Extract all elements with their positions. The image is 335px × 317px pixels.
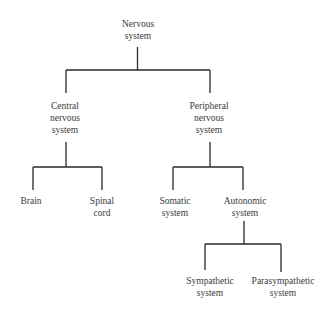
label-line: Brain <box>20 195 41 207</box>
node-parasympathetic-system: Parasympathetic system <box>252 275 315 299</box>
label-line: system <box>252 287 315 299</box>
pns-connector <box>173 142 243 190</box>
label-line: nervous <box>189 112 228 124</box>
node-autonomic-system: Autonomic system <box>224 195 267 219</box>
label-line: Central <box>50 100 80 112</box>
node-brain: Brain <box>20 195 41 207</box>
node-peripheral-nervous-system: Peripheral nervous system <box>189 100 228 136</box>
root-connector <box>66 47 210 93</box>
label-line: system <box>224 207 267 219</box>
node-nervous-system: Nervous system <box>122 18 154 42</box>
label-line: nervous <box>50 112 80 124</box>
autonomic-connector <box>205 221 281 272</box>
label-line: Nervous <box>122 18 154 30</box>
label-line: cord <box>90 207 114 219</box>
label-line: Parasympathetic <box>252 275 315 287</box>
label-line: system <box>186 287 234 299</box>
label-line: Autonomic <box>224 195 267 207</box>
node-spinal-cord: Spinal cord <box>90 195 114 219</box>
label-line: Spinal <box>90 195 114 207</box>
tree-connectors <box>0 0 335 317</box>
label-line: system <box>50 124 80 136</box>
cns-connector <box>33 142 102 190</box>
label-line: system <box>122 30 154 42</box>
label-line: Somatic <box>159 195 190 207</box>
label-line: Peripheral <box>189 100 228 112</box>
label-line: Sympathetic <box>186 275 234 287</box>
node-central-nervous-system: Central nervous system <box>50 100 80 136</box>
node-sympathetic-system: Sympathetic system <box>186 275 234 299</box>
label-line: system <box>159 207 190 219</box>
label-line: system <box>189 124 228 136</box>
node-somatic-system: Somatic system <box>159 195 190 219</box>
